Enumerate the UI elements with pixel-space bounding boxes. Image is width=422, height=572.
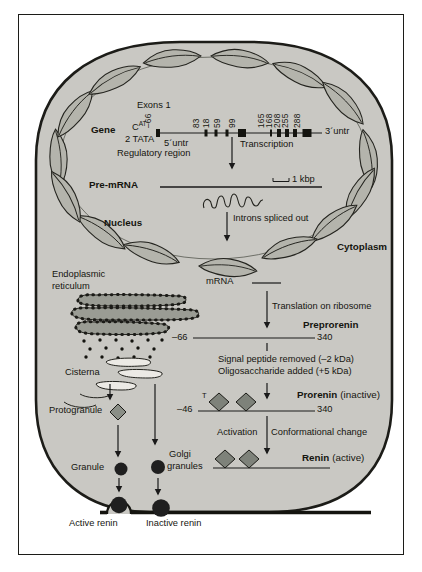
prorenin-end: 340 <box>317 404 333 414</box>
scale-label: 1 kbp <box>292 174 315 184</box>
cisterna-label: Cisterna <box>65 367 100 377</box>
tata-label: 2 TATA <box>125 134 154 144</box>
exon-number: 59 <box>212 118 222 128</box>
active-renin-granule <box>111 497 128 514</box>
transcription-label: Transcription <box>240 139 293 149</box>
oligosaccharide-line: Oligosaccharide added (+5 kDa) <box>218 366 352 376</box>
t-mark: T <box>202 391 207 401</box>
golgi-label-2: granules <box>167 461 203 471</box>
exon-number: 288 <box>292 114 302 128</box>
introns-spliced-label: Introns spliced out <box>233 213 308 223</box>
inactive-renin-granule <box>152 499 170 517</box>
inactive-renin-label: Inactive renin <box>146 518 201 528</box>
renin-name: Renin <box>302 452 329 463</box>
mrna-label: mRNA <box>206 276 233 286</box>
three-untr-label: 3´untr <box>325 126 349 136</box>
prorenin-label: Prorenin(inactive) <box>297 390 380 400</box>
preprorenin-start: –66 <box>172 332 188 342</box>
exon-number: 83 <box>191 118 201 128</box>
exon-number: 255 <box>280 114 290 128</box>
regulatory-region-label: Regulatory region <box>117 148 190 158</box>
prorenin-state: (inactive) <box>340 389 380 400</box>
golgi-label-1: Golgi <box>169 449 191 459</box>
preprorenin-end: 340 <box>317 332 333 342</box>
active-renin-label: Active renin <box>69 518 118 528</box>
exon-number: –66 <box>143 114 153 128</box>
protogranule-label: Protogranule <box>49 405 102 415</box>
five-untr-label: 5´untr <box>164 138 188 148</box>
renin-state: (active) <box>332 452 364 463</box>
gene-label: Gene <box>91 125 116 135</box>
exon-number: 99 <box>227 118 237 128</box>
granule-circle <box>115 463 128 476</box>
prorenin-start: –46 <box>177 404 193 414</box>
granule-label: Granule <box>71 462 104 472</box>
prorenin-name: Prorenin <box>297 389 337 400</box>
renin-label: Renin(active) <box>302 453 364 463</box>
cytoplasm-label: Cytoplasm <box>337 242 387 252</box>
conformational-label: Conformational change <box>271 427 367 437</box>
exon-number: 18 <box>201 118 211 128</box>
nucleus-label: Nucleus <box>104 218 142 228</box>
translation-label: Translation on ribosome <box>272 301 371 311</box>
signal-peptide-line: Signal peptide removed (–2 kDa) <box>218 354 354 364</box>
preprorenin-label: Preprorenin <box>303 320 359 330</box>
activation-label: Activation <box>217 427 257 437</box>
exons-label: Exons 1 <box>137 100 171 110</box>
golgi-granule-circle <box>151 460 165 474</box>
er-label-2: reticulum <box>52 281 90 291</box>
premrna-label: Pre-mRNA <box>89 180 138 190</box>
figure: Gene Exons 1 CAT 2 TATA Regulatory regio… <box>0 0 422 572</box>
cat-base: C <box>132 122 139 132</box>
er-label-1: Endoplasmic <box>52 269 105 279</box>
